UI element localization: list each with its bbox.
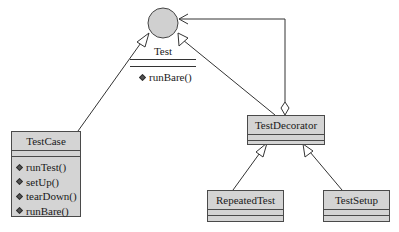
test-interface-name: Test <box>131 45 195 57</box>
method-diamond-icon <box>16 207 23 214</box>
repeatedtest-to-testdecorator-edge <box>233 150 262 190</box>
method-label: runBare() <box>26 204 69 219</box>
test-interface-method: runBare() <box>140 71 192 83</box>
class-testdecorator: TestDecorator <box>247 115 325 145</box>
test-interface-divider <box>130 59 196 60</box>
method-item: tearDown() <box>16 189 80 204</box>
class-name: RepeatedTest <box>208 191 283 210</box>
method-diamond-icon <box>16 164 23 171</box>
class-name: TestDecorator <box>248 116 324 135</box>
aggregation-edge <box>179 19 285 102</box>
testdecorator-to-test-edge <box>183 40 275 115</box>
method-diamond-icon <box>139 73 146 80</box>
method-item: runTest() <box>16 160 80 175</box>
method-item: setUp() <box>16 175 80 190</box>
method-diamond-icon <box>16 193 23 200</box>
class-testcase: TestCase runTest() setUp() tearDown() ru… <box>11 131 81 217</box>
method-diamond-icon <box>16 178 23 185</box>
class-name: TestSetup <box>324 191 389 210</box>
method-label: runTest() <box>26 160 66 175</box>
test-interface-circle <box>148 8 178 38</box>
class-repeatedtest: RepeatedTest <box>207 190 284 222</box>
method-label: setUp() <box>26 175 59 190</box>
methods-compartment: runTest() setUp() tearDown() runBare() <box>12 157 80 218</box>
class-name: TestCase <box>12 132 80 151</box>
methods-compartment <box>248 141 324 146</box>
aggregation-diamond-icon <box>281 102 289 115</box>
testsetup-to-testdecorator-edge <box>310 152 342 190</box>
method-label: tearDown() <box>26 189 77 204</box>
method-item: runBare() <box>16 204 80 219</box>
methods-compartment <box>208 216 283 221</box>
class-testsetup: TestSetup <box>323 190 390 222</box>
method-label: runBare() <box>149 71 192 83</box>
methods-compartment <box>324 216 389 221</box>
test-interface-divider <box>130 66 196 67</box>
